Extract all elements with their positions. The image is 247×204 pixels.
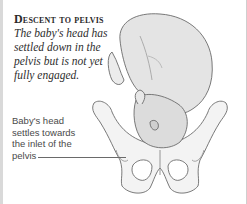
fetus-illustration [108,14,212,148]
annotation-label: Baby's head settles towards the inlet of… [12,115,82,161]
illustration-caption: The baby's head has settled down in the … [14,26,110,82]
section-heading: Descent to pelvis [14,13,104,26]
annotation-leader-line [38,157,126,158]
